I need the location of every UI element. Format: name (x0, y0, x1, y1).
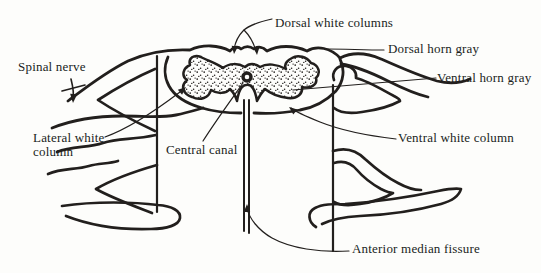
label-spinal-nerve: Spinal nerve (18, 60, 86, 74)
label-central-canal: Central canal (166, 143, 238, 157)
central-canal-circle (243, 73, 251, 81)
left-chevron-root (96, 165, 157, 213)
left-mid-root-line-2 (48, 161, 118, 174)
left-root-triangle (98, 69, 155, 131)
right-nerve-roots (309, 66, 461, 251)
label-dorsal-horn-gray: Dorsal horn gray (388, 42, 479, 56)
right-pennant-root (334, 162, 393, 205)
label-ventral-horn-gray: Ventral horn gray (437, 71, 531, 85)
gray-matter (183, 56, 319, 101)
spinal-cord-diagram: Spinal nerve Dorsal white columns Dorsal… (0, 0, 541, 273)
lateral-white-leader-curve (105, 92, 180, 137)
label-ventral-white-column: Ventral white column (398, 131, 514, 145)
dorsal-horn-gray-leader (327, 49, 384, 50)
left-bottom-crescent (62, 203, 180, 230)
right-mid-root-line (333, 149, 421, 190)
label-dorsal-white-columns: Dorsal white columns (275, 16, 393, 30)
dorsal-white-leader-curve (234, 19, 272, 49)
label-lateral-white-column: Lateral white column (33, 131, 105, 159)
label-anterior-median-fissure: Anterior median fissure (352, 242, 480, 256)
dorsal-white-arrowhead-right-icon (253, 47, 260, 55)
